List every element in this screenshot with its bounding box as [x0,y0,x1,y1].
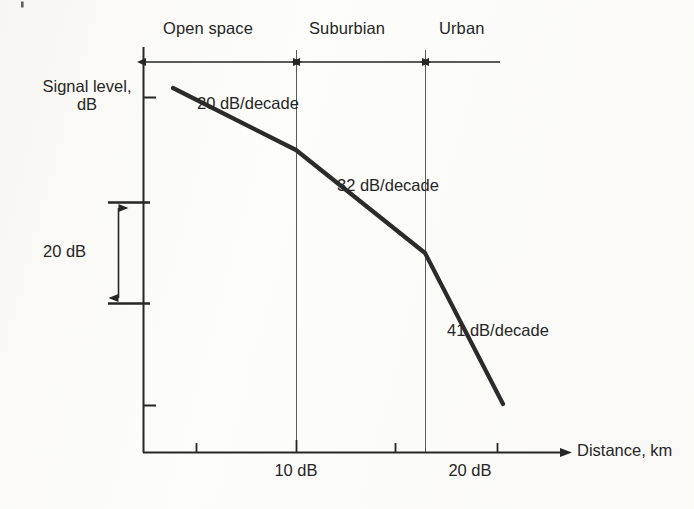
level-drop-label: 20 dB [43,242,86,260]
x-axis-ticks [197,440,498,452]
zone-label-suburbian: Suburbian [309,19,385,37]
zone-label-urban: Urban [439,19,484,37]
x-tick-label-20db: 20 dB [435,461,505,479]
signal-level-chart-figure: Open space Suburbian Urban Signal level,… [0,0,694,509]
x-tick-label-10db: 10 dB [261,461,331,479]
signal-level-curve [173,88,503,404]
x-axis-title: Distance, km [577,441,672,459]
scan-artifact-speck [21,2,24,8]
signal-level-path [173,88,503,404]
slope-annotation-open-space: 20 dB/decade [197,94,299,112]
slope-annotation-urban: 41 dB/decade [447,321,549,339]
slope-annotation-suburbian: 32 dB/decade [337,176,439,194]
zone-divider-lines [297,50,426,452]
y-axis-title: Signal level, dB [31,77,143,114]
y-axis-ticks [143,98,156,406]
zone-label-open-space: Open space [163,19,253,37]
